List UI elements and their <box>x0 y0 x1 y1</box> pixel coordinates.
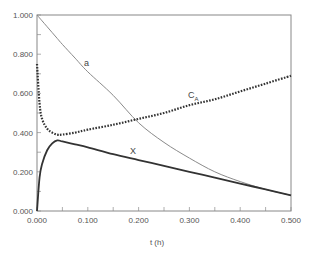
series-line-a <box>37 15 291 195</box>
x-tick-label: 0.300 <box>179 216 200 225</box>
y-tick-label: 0.600 <box>13 89 34 98</box>
y-tick-label: 1.000 <box>13 11 34 20</box>
curve-label-a: a <box>84 58 89 68</box>
y-tick-label: 0.400 <box>13 129 34 138</box>
x-axis-ticks: 0.0000.1000.2000.3000.4000.500 <box>27 207 302 225</box>
x-tick-label: 0.200 <box>129 216 150 225</box>
x-tick-label: 0.000 <box>27 216 48 225</box>
curve-label-ca: CA <box>188 90 199 102</box>
line-chart: 0.0000.2000.4000.6000.8001.000 0.0000.10… <box>0 0 313 260</box>
y-tick-label: 0.800 <box>13 50 34 59</box>
curve-label-ca-sub: A <box>195 96 199 102</box>
x-tick-label: 0.100 <box>78 216 99 225</box>
curve-label-x: X <box>130 146 136 156</box>
x-tick-label: 0.500 <box>281 216 302 225</box>
y-tick-label: 0.200 <box>13 168 34 177</box>
x-axis-title: t (h) <box>150 238 165 247</box>
x-tick-label: 0.400 <box>230 216 251 225</box>
series-line-ca <box>37 64 291 135</box>
series-line-x <box>37 140 291 211</box>
y-tick-label: 0.000 <box>13 207 34 216</box>
series-group <box>37 15 291 211</box>
